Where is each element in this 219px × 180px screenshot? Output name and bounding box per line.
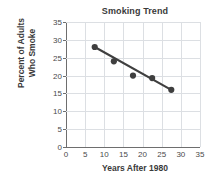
x-axis-tick-label: 30 xyxy=(176,150,185,159)
x-axis-tick-label: 20 xyxy=(138,150,147,159)
trend-line xyxy=(95,47,172,90)
y-axis-title-line-2: Who Smoke xyxy=(27,29,38,78)
y-axis-title: Percent of Adults Who Smoke xyxy=(14,0,40,108)
y-axis-tick-label: 25 xyxy=(53,53,62,62)
y-axis-tick-label: 35 xyxy=(53,18,62,27)
y-axis-tick-label: 30 xyxy=(53,35,62,44)
plot-area: 05101520253035 05101520253035 xyxy=(66,22,200,147)
chart-title: Smoking Trend xyxy=(60,6,210,16)
y-axis-tick-label: 10 xyxy=(53,107,62,116)
data-point xyxy=(130,72,136,78)
x-axis-tick-label: 35 xyxy=(196,150,205,159)
x-axis-tick-label: 10 xyxy=(100,150,109,159)
y-axis-tick-label: 20 xyxy=(53,71,62,80)
x-axis-tick-label: 15 xyxy=(119,150,128,159)
x-axis-line xyxy=(66,147,200,148)
smoking-trend-chart: Smoking Trend Percent of Adults Who Smok… xyxy=(0,0,219,180)
y-axis-tick-label: 0 xyxy=(58,143,62,152)
y-axis-tick-label: 5 xyxy=(58,125,62,134)
gridline-vertical xyxy=(200,22,201,147)
data-layer xyxy=(66,22,200,147)
x-axis-tick-label: 25 xyxy=(157,150,166,159)
x-axis-tick-label: 5 xyxy=(83,150,87,159)
y-axis-title-line-1: Percent of Adults xyxy=(16,18,27,88)
x-axis-title: Years After 1980 xyxy=(60,163,210,173)
y-axis-tick-label: 15 xyxy=(53,89,62,98)
y-axis-tickmark xyxy=(63,147,66,148)
x-axis-tick-label: 0 xyxy=(64,150,68,159)
